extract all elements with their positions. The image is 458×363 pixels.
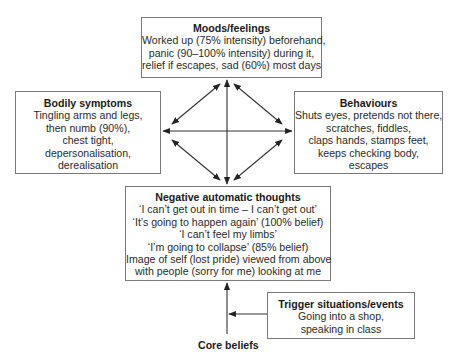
behaviours-line: Shuts eyes, pretends not there, — [295, 109, 442, 121]
nat-line: ‘I can’t get out in time – I can’t get o… — [126, 203, 330, 215]
behaviours-line: escapes — [295, 159, 442, 171]
behaviours-line: claps hands, stamps feet, — [295, 134, 442, 146]
nat-line: Image of self (lost pride) viewed from a… — [126, 253, 330, 265]
nat-line: ‘I can’t feel my limbs’ — [126, 228, 330, 240]
trigger-line: speaking in class — [268, 323, 414, 335]
behaviours-title: Behaviours — [295, 97, 442, 109]
moods-title: Moods/feelings — [142, 22, 321, 34]
bodily-line: then numb (90%), — [16, 122, 160, 134]
core-beliefs-label: Core beliefs — [198, 339, 258, 351]
moods-line: panic (90–100% intensity) during it, — [142, 47, 321, 59]
bodily-line: depersonalisation, — [16, 147, 160, 159]
bodily-line: chest tight, — [16, 134, 160, 146]
moods-line: relief if escapes, sad (60%) most days — [142, 59, 321, 71]
nat-line: ‘It’s going to happen again’ (100% belie… — [126, 216, 330, 228]
trigger-line: Going into a shop, — [268, 310, 414, 322]
moods-line: Worked up (75% intensity) beforehand, — [142, 34, 321, 46]
arrow-moods-bodily — [172, 84, 220, 124]
trigger-situations-box: Trigger situations/events Going into a s… — [267, 292, 415, 339]
trigger-title: Trigger situations/events — [268, 298, 414, 310]
arrow-moods-behaviours — [234, 84, 282, 124]
negative-automatic-thoughts-box: Negative automatic thoughts ‘I can’t get… — [125, 186, 331, 281]
behaviours-line: keeps checking body, — [295, 147, 442, 159]
nat-title: Negative automatic thoughts — [126, 191, 330, 203]
arrow-nat-behaviours — [234, 140, 282, 180]
behaviours-box: Behaviours Shuts eyes, pretends not ther… — [294, 91, 443, 174]
bodily-line: derealisation — [16, 159, 160, 171]
arrow-nat-bodily — [172, 140, 220, 180]
nat-line: with people (sorry for me) looking at me — [126, 265, 330, 277]
moods-feelings-box: Moods/feelings Worked up (75% intensity)… — [141, 17, 322, 78]
behaviours-line: scratches, fiddles, — [295, 122, 442, 134]
bodily-symptoms-box: Bodily symptoms Tingling arms and legs, … — [15, 91, 161, 174]
bodily-title: Bodily symptoms — [16, 97, 160, 109]
nat-line: ‘I’m going to collapse’ (85% belief) — [126, 241, 330, 253]
bodily-line: Tingling arms and legs, — [16, 109, 160, 121]
